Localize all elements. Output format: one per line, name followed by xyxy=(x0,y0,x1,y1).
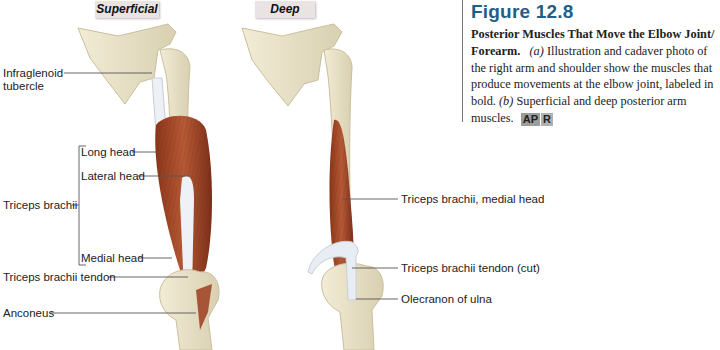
label-long-head: Long head xyxy=(81,146,135,159)
ap-badge: AP xyxy=(521,113,540,126)
figure-number: Figure 12.8 xyxy=(471,1,720,23)
figure: Superficial Deep Infraglenoid tubercle L… xyxy=(0,0,720,350)
label-triceps-tendon: Triceps brachii tendon xyxy=(3,271,116,284)
apr-badge[interactable]: APR xyxy=(521,113,553,126)
label-triceps-brachii: Triceps brachii xyxy=(3,199,77,212)
r-badge: R xyxy=(541,113,553,126)
caption-body: Posterior Muscles That Move the Elbow Jo… xyxy=(471,26,720,127)
deep-arm xyxy=(242,24,383,350)
panel-label-superficial: Superficial xyxy=(95,1,159,18)
figure-caption: Figure 12.8 Posterior Muscles That Move … xyxy=(462,0,720,122)
label-infraglenoid-tubercle: Infraglenoid tubercle xyxy=(3,67,63,93)
label-olecranon: Olecranon of ulna xyxy=(401,293,492,306)
label-lateral-head: Lateral head xyxy=(81,170,145,183)
label-medial-head: Medial head xyxy=(81,252,144,265)
panel-label-deep: Deep xyxy=(255,1,315,18)
label-deep-medial-head: Triceps brachii, medial head xyxy=(401,193,544,206)
label-deep-tendon-cut: Triceps brachii tendon (cut) xyxy=(401,262,540,275)
label-anconeus: Anconeus xyxy=(3,307,54,320)
